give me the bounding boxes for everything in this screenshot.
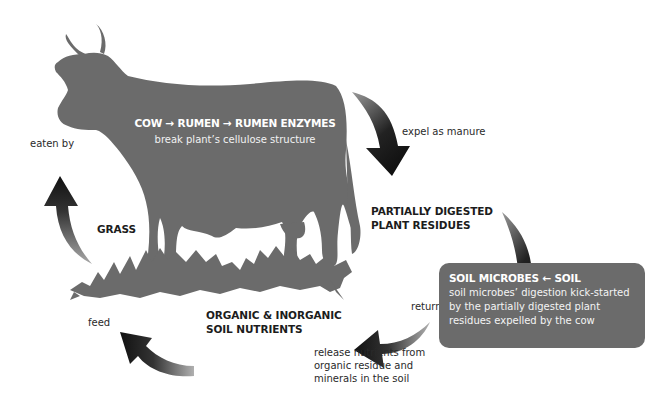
soil-microbes-line1: soil microbes’ digestion kick-started bbox=[449, 286, 635, 300]
eaten-label: eaten by bbox=[30, 137, 74, 150]
right-horn bbox=[96, 24, 106, 54]
grass-tuft bbox=[70, 246, 352, 300]
soil-microbes-box: SOIL MICROBES ← SOIL soil microbes’ dige… bbox=[439, 263, 645, 348]
release-line3: minerals in the soil bbox=[314, 372, 425, 385]
release-label: release nutrients from organic residue a… bbox=[314, 346, 425, 385]
left-horn bbox=[66, 34, 90, 56]
nutrients-node: ORGANIC & INORGANIC SOIL NUTRIENTS bbox=[206, 308, 342, 336]
cow-tail bbox=[346, 140, 361, 254]
partially-digested-line1: PARTIALLY DIGESTED bbox=[371, 204, 493, 218]
partially-digested-line2: PLANT RESIDUES bbox=[371, 218, 493, 232]
feed-label: feed bbox=[88, 316, 110, 329]
expel-label: expel as manure bbox=[402, 125, 485, 138]
release-line1: release nutrients from bbox=[314, 346, 425, 359]
cow-udder bbox=[280, 222, 305, 238]
cow-title: COW → RUMEN → RUMEN ENZYMES bbox=[120, 117, 350, 129]
nutrients-line2: SOIL NUTRIENTS bbox=[206, 322, 342, 336]
release-line2: organic residue and bbox=[314, 359, 425, 372]
soil-microbes-line2: by the partially digested plant bbox=[449, 300, 635, 314]
soil-microbes-line3: residues expelled by the cow bbox=[449, 314, 635, 328]
grass-node: GRASS bbox=[97, 222, 136, 236]
eaten-arrow bbox=[44, 176, 92, 264]
feed-arrow bbox=[120, 332, 194, 376]
soil-microbes-title: SOIL MICROBES ← SOIL bbox=[449, 271, 635, 286]
nutrients-line1: ORGANIC & INORGANIC bbox=[206, 308, 342, 322]
cow-subtitle: break plant’s cellulose structure bbox=[120, 134, 350, 145]
partially-digested-node: PARTIALLY DIGESTED PLANT RESIDUES bbox=[371, 204, 493, 232]
